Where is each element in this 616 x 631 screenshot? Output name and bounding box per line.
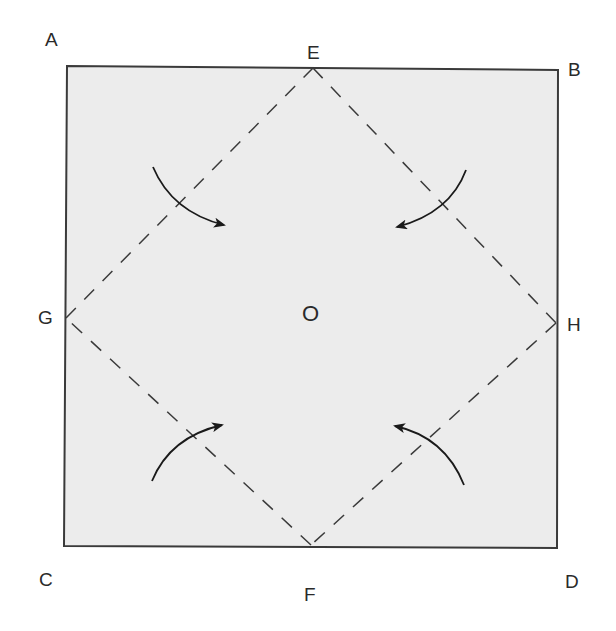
label-a: A — [45, 30, 58, 49]
label-g: G — [38, 308, 53, 327]
label-h: H — [567, 315, 581, 334]
label-d: D — [565, 572, 579, 591]
label-o: O — [302, 303, 319, 325]
label-e: E — [307, 43, 320, 62]
label-b: B — [568, 60, 581, 79]
label-c: C — [39, 570, 53, 589]
label-f: F — [304, 585, 316, 604]
